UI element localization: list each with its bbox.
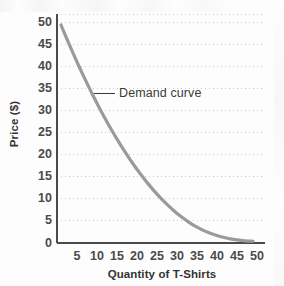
scan-artifact-top: [0, 0, 284, 12]
y-tick-label: 50: [6, 16, 52, 29]
x-axis-title: Quantity of T-Shirts: [57, 268, 267, 280]
y-tick-label: 0: [6, 237, 52, 250]
scan-artifact-right: [274, 0, 284, 286]
plot-area: [57, 14, 265, 243]
x-axis-tick-labels: 5101520253035404550: [57, 250, 272, 266]
plot-svg: [57, 14, 265, 243]
x-tick-label: 50: [242, 250, 272, 263]
y-tick-label: 45: [6, 38, 52, 51]
gridlines-group: [57, 14, 265, 221]
demand-curve-annotation-label: Demand curve: [119, 86, 202, 100]
y-axis-title: Price ($): [8, 84, 20, 164]
y-tick-label: 15: [6, 170, 52, 183]
y-tick-label: 40: [6, 60, 52, 73]
y-tick-label: 10: [6, 192, 52, 205]
y-tick-label: 5: [6, 214, 52, 227]
demand-curve-chart-figure: 05101520253035404550 Demand curve 510152…: [0, 0, 284, 286]
